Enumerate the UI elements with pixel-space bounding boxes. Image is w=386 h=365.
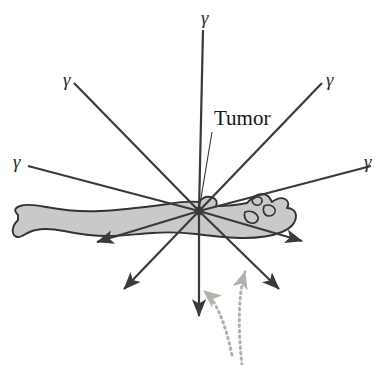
gamma-upper-left-label: γ	[63, 69, 71, 90]
tumor-label: Tumor	[214, 106, 270, 130]
diagram-canvas: γγγγγ Tumor	[0, 0, 386, 365]
gamma-label-group: γγγγγ	[13, 7, 372, 172]
ray-left	[28, 166, 199, 211]
gamma-upper-right-label: γ	[326, 69, 334, 90]
gamma-ray-group	[28, 30, 371, 316]
gamma-right-label: γ	[364, 151, 372, 172]
gamma-emission-diagram: γγγγγ Tumor	[0, 0, 386, 365]
ray-upper-left	[74, 83, 199, 211]
dotted-rotation-arrows	[204, 272, 245, 365]
ray-up	[199, 30, 203, 211]
patient-body-outline	[13, 194, 296, 238]
ray-upper-right	[199, 83, 322, 211]
dotted-arrow-left	[204, 291, 232, 355]
patient-body	[13, 194, 296, 238]
dotted-arrow-right	[239, 272, 245, 365]
gamma-left-label: γ	[13, 151, 21, 172]
gamma-top-label: γ	[201, 7, 209, 28]
